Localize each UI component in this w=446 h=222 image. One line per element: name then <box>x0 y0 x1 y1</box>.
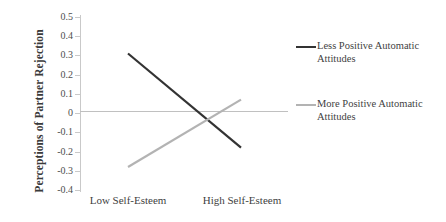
chart-screenshot: Perceptions of Partner Rejection 0.50.40… <box>0 0 446 222</box>
legend-label: Less Positive Automatic Attitudes <box>317 40 441 65</box>
x-axis-label-high-self-esteem: High Self-Esteem <box>186 194 298 206</box>
legend-label: More Positive Automatic Attitudes <box>317 98 441 123</box>
legend-swatch-icon <box>296 46 316 48</box>
legend-entry: Less Positive Automatic Attitudes <box>296 40 441 65</box>
legend-entry: More Positive Automatic Attitudes <box>296 98 441 123</box>
legend-swatch-icon <box>296 104 316 106</box>
x-axis-label-low-self-esteem: Low Self-Esteem <box>72 194 184 206</box>
